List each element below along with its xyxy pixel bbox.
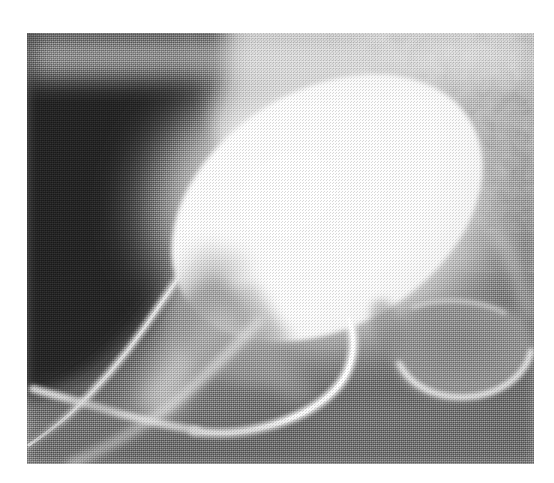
page-root: Lateral pelvic radiograph showing a larg… <box>0 0 554 483</box>
film-grain <box>27 33 534 464</box>
radiograph-canvas <box>27 33 534 464</box>
radiograph-image: Lateral pelvic radiograph showing a larg… <box>27 33 534 464</box>
